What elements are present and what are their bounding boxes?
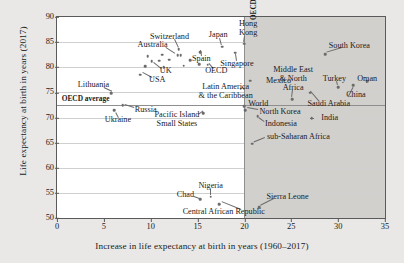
point-annotation-label: South Korea (329, 41, 370, 50)
y-axis-tick-label: 50 (46, 214, 54, 222)
data-point (337, 86, 340, 89)
point-annotation-label: India (321, 113, 338, 122)
point-annotation-label: Japan (209, 30, 228, 39)
x-axis-tick-label: 35 (381, 223, 389, 231)
point-annotation-label: Saudi Arabia (308, 99, 351, 108)
oecd-average-vertical-label: OECD average (250, 0, 258, 20)
gridline-horizontal (57, 143, 385, 144)
data-point (324, 53, 327, 56)
data-point (202, 112, 205, 115)
x-axis-tick-label: 25 (287, 223, 295, 231)
y-axis-tick-label: 90 (46, 13, 54, 21)
point-annotation-label: OECD (205, 66, 227, 75)
point-annotation-label: Spain (192, 54, 211, 63)
data-point (243, 42, 246, 45)
point-annotation-label: Australia (138, 40, 168, 49)
point-annotation-label: Central African Republic (183, 207, 265, 216)
y-axis-tick-label: 60 (46, 164, 54, 172)
data-point (251, 142, 254, 145)
data-point (110, 92, 113, 95)
x-axis-tick-label: 0 (55, 223, 59, 231)
x-axis-tick-label: 20 (240, 223, 248, 231)
data-point (198, 63, 201, 66)
point-annotation-label: Turkey (323, 74, 346, 83)
data-point (199, 198, 202, 201)
point-annotation-label: Lithuania (78, 80, 109, 89)
y-axis-tick-label: 65 (46, 138, 54, 146)
point-annotation-label: & the Caribbean (199, 91, 253, 100)
data-point (168, 58, 171, 61)
point-annotation-label: Kong (239, 28, 257, 37)
point-annotation-label: UK (160, 66, 172, 75)
x-axis-tick-label: 5 (102, 223, 106, 231)
data-point (311, 117, 314, 120)
y-axis-tick-label: 70 (46, 113, 54, 121)
point-annotation-label: Sierra Leone (267, 192, 309, 201)
gridline-horizontal (57, 168, 385, 169)
x-axis-tick-label: 10 (147, 223, 155, 231)
y-axis-title: Life expectancy at birth in years (2017) (18, 0, 28, 206)
plot-area: OECD average5055606570758085900510152025… (56, 16, 386, 219)
data-point (144, 65, 147, 68)
point-annotation-label: Oman (357, 74, 377, 83)
data-point (158, 59, 161, 62)
data-point (243, 105, 246, 108)
data-point (189, 59, 192, 62)
point-annotation-label: Hong (239, 19, 257, 28)
point-annotation-label: Chad (177, 190, 194, 199)
gridline-horizontal (57, 193, 385, 194)
data-point (352, 84, 355, 87)
data-point (218, 203, 221, 206)
data-point (113, 109, 116, 112)
point-annotation-label: Small States (157, 119, 198, 128)
point-annotation-label: Pacific Island (155, 110, 200, 119)
data-point (150, 60, 153, 63)
point-annotation-label: Nigeria (198, 181, 223, 190)
data-point (221, 45, 224, 48)
data-point (182, 64, 185, 67)
point-annotation-label: Russia (135, 105, 157, 114)
point-annotation-label: Ukraine (105, 115, 131, 124)
oecd-average-vertical (244, 17, 245, 218)
data-point (178, 48, 181, 51)
point-annotation-label: sub-Saharan Africa (267, 132, 330, 141)
y-axis-tick-label: 55 (46, 189, 54, 197)
point-annotation-label: Indonesia (265, 119, 297, 128)
point-annotation-label: USA (149, 75, 165, 84)
point-annotation-label: Africa (283, 83, 304, 92)
data-point (121, 104, 124, 107)
data-point (209, 196, 212, 199)
data-point (309, 92, 312, 95)
data-point (244, 109, 247, 112)
data-point (161, 53, 164, 56)
y-axis-tick-label: 75 (46, 88, 54, 96)
data-point (179, 54, 182, 57)
point-annotation-label: Middle East (273, 65, 313, 74)
y-axis-tick-label: 85 (46, 38, 54, 46)
point-annotation-label: North Korea (259, 107, 300, 116)
x-axis-tick-label: 15 (193, 223, 201, 231)
data-point (291, 98, 294, 101)
data-point (147, 55, 150, 58)
point-annotation-label: China (346, 90, 366, 99)
x-axis-title: Increase in life expectancy at birth in … (0, 241, 404, 251)
point-annotation-label: & North (279, 74, 307, 83)
y-axis-tick-label: 80 (46, 63, 54, 71)
x-axis-tick-label: 30 (334, 223, 342, 231)
point-annotation-label: OECD average (62, 94, 110, 103)
point-annotation-label: Latin America (202, 82, 249, 91)
data-point (139, 73, 142, 76)
scatter-plot-chart: Life expectancy at birth in years (2017)… (0, 0, 404, 263)
data-point (234, 51, 237, 54)
